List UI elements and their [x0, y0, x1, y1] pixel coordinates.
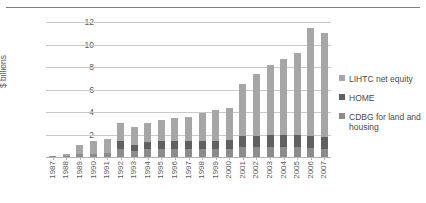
bar-segment — [280, 59, 287, 135]
bar-segment — [212, 141, 219, 149]
x-label-slot: 1992 — [114, 160, 128, 202]
x-label-slot: 2003 — [263, 160, 277, 202]
bar-1989 — [76, 145, 83, 157]
x-tick-label-1989: 1989 — [76, 161, 84, 179]
bar-segment — [185, 149, 192, 157]
bar-group — [195, 22, 209, 157]
bar-group — [318, 22, 332, 157]
bar-segment — [253, 147, 260, 157]
x-label-slot: 2005 — [290, 160, 304, 202]
x-tick-label-2003: 2003 — [266, 161, 274, 179]
legend-label: HOME — [349, 93, 375, 103]
bar-segment — [212, 110, 219, 141]
legend-swatch-icon — [339, 75, 345, 81]
x-label-slot: 1999 — [209, 160, 223, 202]
x-tick-label-2005: 2005 — [293, 161, 301, 179]
legend-item[interactable]: LIHTC net equity — [339, 74, 425, 84]
bar-2000 — [226, 108, 233, 158]
x-label-slot: 1994 — [141, 160, 155, 202]
bar-group — [100, 22, 114, 157]
x-tick-label-1998: 1998 — [198, 161, 206, 179]
x-tick-label-1994: 1994 — [144, 161, 152, 179]
bar-segment — [117, 123, 124, 141]
bar-segment — [199, 149, 206, 157]
bar-2007 — [321, 33, 328, 157]
legend-item[interactable]: HOME — [339, 93, 425, 103]
bar-segment — [267, 135, 274, 147]
bar-1999 — [212, 110, 219, 157]
bar-segment — [131, 127, 138, 145]
x-label-slot: 2007 — [318, 160, 332, 202]
x-label-slot: 2006 — [304, 160, 318, 202]
x-label-slot: 1997 — [182, 160, 196, 202]
bar-segment — [239, 84, 246, 135]
bar-group — [223, 22, 237, 157]
bar-group — [127, 22, 141, 157]
bar-segment — [267, 65, 274, 135]
bar-segment — [267, 147, 274, 157]
x-tick-label-1987: 1987 — [49, 161, 57, 179]
bar-segment — [226, 140, 233, 149]
bar-group — [60, 22, 74, 157]
bar-segment — [307, 148, 314, 157]
x-tick-label-1992: 1992 — [117, 161, 125, 179]
x-tick-label-2001: 2001 — [239, 161, 247, 179]
x-tick-label-2000: 2000 — [225, 161, 233, 179]
bar-segment — [185, 141, 192, 149]
bar-segment — [199, 113, 206, 142]
bar-2006 — [307, 28, 314, 157]
bar-group — [236, 22, 250, 157]
bar-group — [304, 22, 318, 157]
x-tick-label-1997: 1997 — [185, 161, 193, 179]
bar-segment — [158, 149, 165, 157]
bar-segment — [90, 141, 97, 153]
legend-label: CDBG for land and housing — [349, 112, 425, 132]
bar-segment — [321, 149, 328, 157]
x-label-slot: 1988 — [60, 160, 74, 202]
bar-segment — [280, 135, 287, 148]
bar-2004 — [280, 59, 287, 157]
stacked-bar-chart: $ billions 24681012 19871988198919901991… — [0, 0, 426, 203]
x-label-slot: 1998 — [195, 160, 209, 202]
bar-segment — [158, 120, 165, 141]
bar-segment — [226, 149, 233, 157]
legend-item[interactable]: CDBG for land and housing — [339, 112, 425, 132]
x-label-slot: 1993 — [127, 160, 141, 202]
bar-group — [114, 22, 128, 157]
x-label-slot: 1990 — [87, 160, 101, 202]
bar-segment — [294, 135, 301, 147]
bar-group — [46, 22, 60, 157]
bar-segment — [171, 141, 178, 149]
x-label-slot: 1987 — [46, 160, 60, 202]
bar-segment — [226, 108, 233, 141]
bar-segment — [239, 147, 246, 157]
bar-group — [168, 22, 182, 157]
bar-2003 — [267, 65, 274, 157]
bar-group — [209, 22, 223, 157]
x-label-slot: 2002 — [250, 160, 264, 202]
chart-legend: LIHTC net equityHOMECDBG for land and ho… — [339, 74, 425, 141]
bar-segment — [294, 53, 301, 135]
bar-segment — [144, 142, 151, 149]
x-label-slot: 1996 — [168, 160, 182, 202]
bar-series-container — [46, 22, 331, 157]
plot-area — [46, 22, 331, 158]
bar-segment — [144, 149, 151, 157]
x-tick-label-1996: 1996 — [171, 161, 179, 179]
bar-segment — [144, 123, 151, 142]
x-tick-label-2002: 2002 — [252, 161, 260, 179]
x-tick-label-1999: 1999 — [212, 161, 220, 179]
bar-segment — [185, 117, 192, 141]
bar-segment — [280, 147, 287, 157]
legend-swatch-icon — [339, 113, 345, 119]
bar-1998 — [199, 113, 206, 157]
bar-segment — [253, 136, 260, 148]
bar-group — [182, 22, 196, 157]
bar-segment — [294, 147, 301, 157]
legend-label: LIHTC net equity — [349, 74, 413, 84]
bar-segment — [117, 149, 124, 157]
x-label-slot: 2000 — [223, 160, 237, 202]
bar-segment — [171, 149, 178, 157]
bar-segment — [321, 137, 328, 149]
bar-group — [141, 22, 155, 157]
